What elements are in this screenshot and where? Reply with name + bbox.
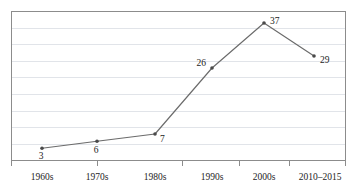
data-point-marker <box>95 139 99 143</box>
data-value-label: 37 <box>270 16 280 26</box>
x-axis-tick-label: 1980s <box>144 172 167 182</box>
data-point-marker <box>40 146 44 150</box>
data-value-label: 6 <box>94 145 99 155</box>
data-point-marker <box>312 54 316 58</box>
chart-canvas: 3 6 7 26 37 29 1960s 1970s 1980s 1990s 2… <box>0 0 357 196</box>
x-axis-tick-label: 2010–2015 <box>299 172 342 182</box>
data-point-marker <box>262 21 266 25</box>
line-chart-figure: 3 6 7 26 37 29 1960s 1970s 1980s 1990s 2… <box>0 0 357 196</box>
data-value-label: 3 <box>39 151 44 161</box>
data-value-label: 29 <box>320 55 330 65</box>
data-point-marker <box>210 66 214 70</box>
x-axis-tick-label: 1970s <box>86 172 109 182</box>
chart-background <box>0 0 357 196</box>
x-axis-tick-label: 1990s <box>201 172 224 182</box>
data-point-marker <box>153 132 157 136</box>
data-value-label: 7 <box>160 134 165 144</box>
data-value-label: 26 <box>197 58 207 68</box>
x-axis-tick-label: 2000s <box>253 172 276 182</box>
x-axis-tick-label: 1960s <box>31 172 54 182</box>
